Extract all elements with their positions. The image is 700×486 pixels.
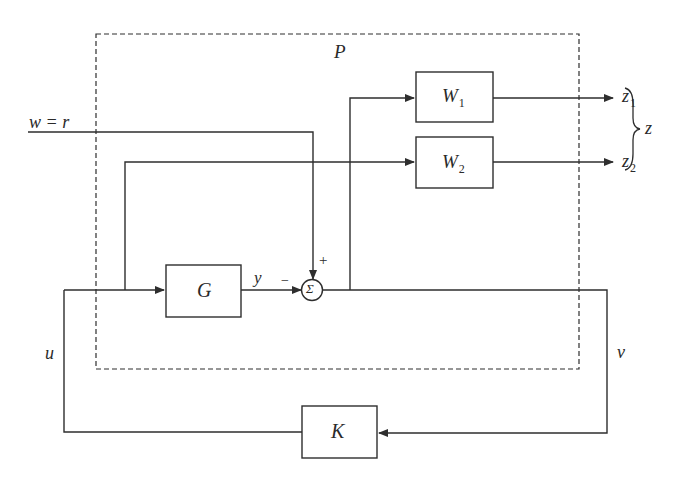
z2-name: z <box>622 151 629 171</box>
k-label: K <box>331 421 344 441</box>
w-equals-r-label: w = r <box>29 113 69 131</box>
w2-name: W <box>442 151 458 172</box>
sigma-symbol: Σ <box>306 282 314 295</box>
z1-subscript: 1 <box>630 96 636 110</box>
z1-label: z1 <box>622 87 636 105</box>
w1-label: W1 <box>442 86 465 105</box>
w2-subscript: 2 <box>459 162 465 176</box>
minus-sign: − <box>281 274 289 288</box>
w1-name: W <box>442 85 458 106</box>
w1-subscript: 1 <box>459 96 465 110</box>
z-label: z <box>645 119 652 137</box>
plus-sign: + <box>319 253 327 268</box>
w2-label: W2 <box>442 152 465 171</box>
block-diagram: P w = r W1 W2 G K y − + Σ u v z1 z2 z <box>0 0 700 486</box>
z1-name: z <box>622 86 629 106</box>
y-label: y <box>254 269 262 286</box>
g-label: G <box>197 280 211 300</box>
plant-label: P <box>334 42 346 61</box>
sum-to-w1-line <box>350 98 414 290</box>
u-label: u <box>45 344 54 362</box>
z2-subscript: 2 <box>630 161 636 175</box>
diagram-lines <box>0 0 700 486</box>
z2-label: z2 <box>622 152 636 170</box>
w-signal-line <box>28 132 313 279</box>
plant-boundary-dashed <box>96 34 579 369</box>
v-label: v <box>617 343 625 361</box>
